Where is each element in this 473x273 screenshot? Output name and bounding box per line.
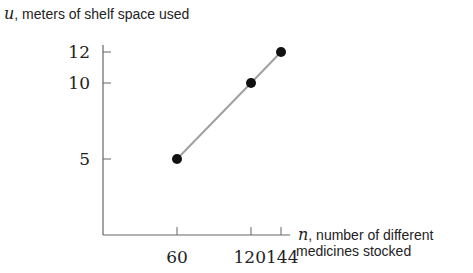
x-axis-label-line2: medicines stocked	[296, 243, 411, 259]
y-tick-label-12: 12	[68, 42, 90, 62]
x-tick-label-60: 60	[166, 247, 188, 267]
x-axis-var: n	[298, 225, 308, 244]
x-axis-label-line1: n, number of different	[298, 225, 433, 244]
data-point-120-10	[246, 78, 256, 88]
data-point-144-12	[276, 47, 286, 57]
data-line	[177, 52, 281, 159]
y-axis-var: u	[4, 4, 14, 23]
x-axis-text-1: , number of different	[308, 227, 433, 243]
chart: u, meters of shelf space used 12 10 5 60…	[0, 0, 473, 273]
y-tick-label-5: 5	[79, 149, 90, 169]
y-axis-label: u, meters of shelf space used	[4, 4, 189, 23]
y-tick-label-10: 10	[68, 73, 90, 93]
y-axis-text: , meters of shelf space used	[14, 6, 189, 22]
x-tick-label-120-144: 120144	[234, 247, 299, 267]
data-point-60-5	[172, 154, 182, 164]
